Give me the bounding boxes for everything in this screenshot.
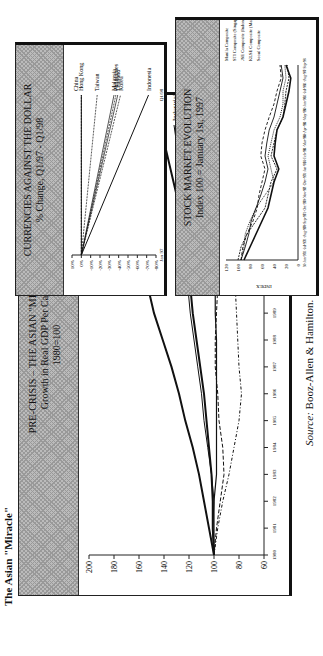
page-heading: The Asian "Miracle" [2,507,14,606]
svg-text:80: 80 [248,264,253,270]
svg-text:Korea: Korea [118,76,124,91]
svg-text:1985: 1985 [272,415,277,426]
svg-text:-60%: -60% [135,260,140,271]
svg-text:Taiwan: Taiwan [94,73,100,91]
svg-text:31-Aug-98: 31-Aug-98 [303,70,307,86]
svg-text:-40%: -40% [117,260,122,271]
svg-text:-20%: -20% [98,260,103,271]
svg-text:1986: 1986 [272,388,277,399]
svg-text:100: 100 [210,561,219,573]
svg-text:0: 0 [296,264,301,267]
source-note: Source: Booz-Allen & Hamilton. [303,300,315,446]
currencies-chart-subtitle: % Change, Q1/97 - Q1/98 [34,45,46,295]
svg-text:60: 60 [260,561,269,569]
svg-text:-50%: -50% [126,260,131,271]
svg-text:31-Dec-97: 31-Dec-97 [303,174,307,190]
svg-text:31-Jul-97: 31-Jul-97 [303,240,307,254]
currencies-chart-header: CURRENCIES AGAINST THE DOLLAR % Change, … [16,45,64,295]
svg-text:40: 40 [272,264,277,270]
svg-text:31-Jul-98: 31-Jul-98 [303,84,307,98]
svg-text:1984: 1984 [272,442,277,453]
svg-text:1988: 1988 [272,335,277,346]
svg-text:-70%: -70% [145,260,150,271]
svg-text:200: 200 [85,561,94,573]
svg-text:-10%: -10% [89,260,94,271]
svg-text:160: 160 [135,561,144,573]
svg-text:60: 60 [260,264,265,270]
svg-text:INDEX: INDEX [256,284,272,289]
svg-text:-30%: -30% [107,260,112,271]
source-text: Booz-Allen & Hamilton. [303,300,315,410]
svg-text:KLSE Composite (Malaysia): KLSE Composite (Malaysia) [248,20,253,61]
svg-text:100: 100 [236,264,241,272]
svg-text:Seoul Composite: Seoul Composite [256,30,261,61]
svg-text:Jan 97: Jan 97 [159,248,164,261]
svg-text:140: 140 [160,561,169,573]
svg-text:STI Composite (Singapore): STI Composite (Singapore) [232,20,237,61]
currencies-chart-panel: CURRENCIES AGAINST THE DOLLAR % Change, … [15,42,167,296]
stocks-chart-header: STOCK MARKET EVOLUTION Index 100 = Janua… [176,20,220,295]
svg-text:Hong Kong: Hong Kong [78,63,84,91]
svg-text:31-Jan-98: 31-Jan-98 [303,162,307,177]
stocks-chart-panel: STOCK MARKET EVOLUTION Index 100 = Janua… [175,17,319,296]
svg-text:Q1/98: Q1/98 [159,88,164,101]
svg-text:1980: 1980 [272,550,277,561]
source-label: Source: [303,412,315,446]
svg-text:120: 120 [224,264,229,272]
svg-text:20: 20 [284,264,289,270]
svg-text:1983: 1983 [272,469,277,480]
svg-text:Manila Composite: Manila Composite [224,28,229,61]
svg-text:0%: 0% [79,260,84,267]
svg-text:JSE Composite (Indonesia): JSE Composite (Indonesia) [240,20,245,61]
svg-text:1987: 1987 [272,361,277,372]
svg-text:120: 120 [185,561,194,573]
svg-text:-80%: -80% [154,260,159,271]
stocks-chart-title: STOCK MARKET EVOLUTION [182,20,194,295]
svg-text:180: 180 [110,561,119,573]
svg-text:1981: 1981 [272,523,277,534]
svg-text:1982: 1982 [272,496,277,507]
rotated-page: The Asian "Miracle" PRE-CRISIS – THE ASI… [0,0,323,656]
svg-text:Indonesia: Indonesia [146,67,152,91]
currencies-line-chart: 10%0%-10%-20%-30%-40%-50%-60%-70%-80%Jan… [64,45,164,295]
svg-text:7-Sep-98: 7-Sep-98 [303,58,307,71]
stocks-chart-subtitle: Index 100 = January 1st, 1997 [194,20,206,295]
svg-text:30-Jun-98: 30-Jun-98 [303,97,307,112]
svg-text:10%: 10% [70,260,75,269]
svg-text:30-Sep-97: 30-Sep-97 [303,213,307,228]
svg-text:30-Jun-97: 30-Jun-97 [303,253,307,268]
svg-text:80: 80 [235,561,244,569]
stocks-line-chart: 020406080100120INDEX30-Jun-9731-Jul-9731… [220,20,316,295]
currencies-chart-title: CURRENCIES AGAINST THE DOLLAR [22,45,34,295]
